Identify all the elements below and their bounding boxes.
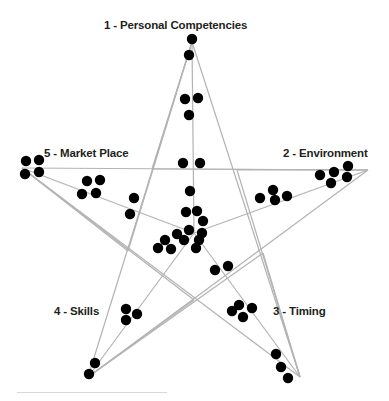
axis-line-left	[22, 168, 194, 233]
data-dot	[121, 315, 131, 325]
data-dot	[166, 244, 176, 254]
data-dot	[326, 178, 336, 188]
data-dot	[20, 169, 30, 179]
data-dot	[187, 34, 197, 44]
data-dot	[282, 191, 292, 201]
axis-line-right	[194, 170, 368, 233]
data-dot	[95, 175, 105, 185]
data-dot	[283, 373, 293, 383]
star-edge-top	[192, 42, 300, 377]
data-dot	[184, 50, 194, 60]
data-dot	[329, 167, 339, 177]
star-diagram-canvas	[0, 0, 389, 401]
axis-label-environment: 2 - Environment	[283, 147, 368, 160]
data-dot	[184, 225, 194, 235]
data-dot	[192, 206, 202, 216]
data-dot	[125, 209, 135, 219]
axis-label-market-place: 5 - Market Place	[44, 147, 129, 160]
data-dot	[223, 261, 233, 271]
data-dot	[84, 369, 94, 379]
data-dot	[91, 188, 101, 198]
data-dot	[315, 170, 325, 180]
data-dot	[227, 306, 237, 316]
data-dots	[20, 34, 353, 383]
data-dot	[129, 193, 139, 203]
data-dot	[270, 195, 280, 205]
data-dot	[181, 207, 191, 217]
data-dot	[193, 93, 203, 103]
data-dot	[180, 94, 190, 104]
pentagon-edge-a-4	[22, 168, 128, 251]
star-diagram-figure: 1 - Personal Competencies 2 - Environmen…	[0, 0, 389, 401]
data-dot	[21, 156, 31, 166]
data-dot	[179, 235, 189, 245]
footer-divider	[17, 392, 167, 393]
data-dot	[34, 155, 44, 165]
data-dot	[198, 216, 208, 226]
data-dot	[255, 193, 265, 203]
data-dot	[268, 185, 278, 195]
data-dot	[184, 110, 194, 120]
data-dot	[185, 186, 195, 196]
data-dot	[77, 189, 87, 199]
data-dot	[343, 161, 353, 171]
data-dot	[90, 358, 100, 368]
data-dot	[276, 362, 286, 372]
data-dot	[210, 265, 220, 275]
data-dot	[191, 243, 201, 253]
axis-line-top	[192, 42, 194, 233]
data-dot	[34, 167, 44, 177]
axis-line-bottomleft	[88, 233, 194, 377]
data-dot	[121, 304, 131, 314]
data-dot	[247, 303, 257, 313]
data-dot	[271, 349, 281, 359]
data-dot	[195, 158, 205, 168]
axis-label-skills: 4 - Skills	[54, 305, 99, 318]
data-dot	[82, 176, 92, 186]
data-dot	[132, 309, 142, 319]
data-dot	[238, 312, 248, 322]
data-dot	[178, 158, 188, 168]
data-dot	[153, 243, 163, 253]
data-dot	[342, 172, 352, 182]
data-dot	[160, 235, 170, 245]
axis-label-personal-competencies: 1 - Personal Competencies	[104, 19, 247, 32]
axis-label-timing: 3 - Timing	[273, 305, 326, 318]
